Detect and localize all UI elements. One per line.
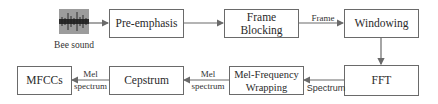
edge-label-spectrum: Spectrum [306, 83, 346, 93]
input-label: Bee sound [48, 40, 100, 50]
edge-label-frame: Frame [306, 13, 340, 23]
waveform-icon [59, 9, 89, 34]
node-frame-blocking: Frame Blocking [224, 9, 299, 38]
edge-label-mel-spectrum-left-l2: spectrum [72, 81, 109, 91]
node-windowing: Windowing [344, 9, 419, 38]
node-cepstrum: Cepstrum [109, 66, 184, 95]
node-fft: FFT [344, 65, 419, 96]
node-mfccs: MFCCs [17, 66, 72, 95]
edge-label-mel-spectrum-right-l1: Mel [188, 69, 228, 79]
edge-label-mel-spectrum-right-l2: spectrum [188, 81, 228, 91]
node-mel-frequency-wrapping: Mel-Frequency Wrapping [229, 66, 304, 95]
edge-label-mel-spectrum-left-l1: Mel [72, 69, 109, 79]
node-pre-emphasis: Pre-emphasis [109, 9, 184, 38]
